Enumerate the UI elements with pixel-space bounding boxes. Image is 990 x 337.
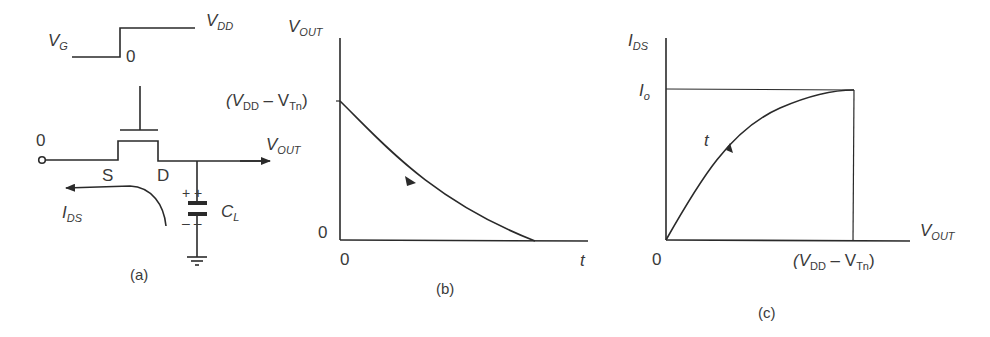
y-tick-vdd-minus-vtn: (VDD – VTn) (226, 91, 308, 112)
cl-label: CL (221, 202, 239, 223)
x-tick-vdd-minus-vtn: (VDD – VTn) (793, 251, 875, 272)
ids-label-a: IDS (62, 203, 83, 224)
panel-b-vout-vs-time: VOUT (VDD – VTn) 0 0 t (b) (226, 17, 588, 297)
vg-label: VG (48, 31, 68, 52)
x-axis-label-c: VOUT (920, 221, 956, 242)
x-axis-label-b: t (580, 251, 586, 270)
y-zero-b: 0 (318, 223, 327, 242)
caption-c: (c) (758, 304, 776, 321)
caption-a: (a) (130, 266, 148, 283)
vout-label-a: VOUT (266, 135, 302, 156)
vdd-minus-vtn-line (853, 90, 854, 241)
input-terminal (39, 157, 46, 164)
cap-minus-signs: – – (182, 215, 202, 231)
x-axis-c (666, 240, 910, 241)
x-zero-b: 0 (340, 250, 349, 269)
x-zero-c: 0 (652, 250, 661, 269)
y-axis-label-b: VOUT (288, 17, 324, 38)
ground-icon (187, 257, 207, 265)
curve-t-label: t (704, 131, 710, 150)
io-label: Io (639, 81, 650, 102)
caption-b: (b) (436, 280, 454, 297)
y-axis-label-c: IDS (628, 31, 649, 52)
drain-label: D (157, 166, 169, 185)
ids-vout-curve (666, 90, 854, 240)
source-label: S (102, 166, 113, 185)
discharge-curve (340, 101, 535, 241)
io-level-line (666, 89, 854, 90)
input-zero-label: 0 (36, 131, 45, 150)
x-axis-b (340, 240, 588, 241)
step-zero-label: 0 (126, 47, 135, 66)
panel-a-circuit: VG VDD 0 0 S D VOUT + + – – CL IDS (a) (36, 11, 302, 283)
vdd-label: VDD (206, 11, 233, 32)
figure-canvas: VG VDD 0 0 S D VOUT + + – – CL IDS (a) (0, 0, 990, 337)
cap-plate-top (188, 201, 207, 205)
source-drain-wire (44, 141, 268, 161)
panel-c-ids-vs-vout: IDS Io t VOUT 0 (VDD – VTn) (c) (628, 31, 956, 321)
curve-direction-arrow-b (405, 176, 416, 186)
cap-plus-signs: + + (182, 185, 202, 201)
